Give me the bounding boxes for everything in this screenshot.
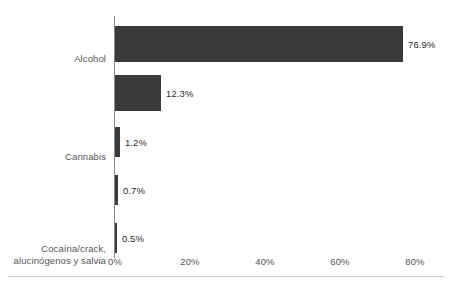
chart-row: Cannabis 12.3%: [0, 69, 452, 117]
bar-value-label: 0.5%: [122, 233, 144, 244]
bar-value-label: 1.2%: [125, 137, 147, 148]
bar-wrapper: 0.7%: [115, 166, 145, 214]
plot-area: Alcohol 76.9% Cannabis 12.3% Cocaína/cra…: [0, 0, 452, 287]
x-axis-tick-60: 60%: [330, 256, 349, 267]
bottom-divider: [8, 276, 444, 277]
chart-row: Alcohol 76.9%: [0, 20, 452, 68]
bar-value-label: 0.7%: [123, 185, 145, 196]
bar-value-label: 76.9%: [408, 39, 435, 50]
bar-chart: Alcohol 76.9% Cannabis 12.3% Cocaína/cra…: [0, 0, 452, 287]
x-axis-tick-0: 0%: [108, 256, 122, 267]
x-axis-tick-20: 20%: [180, 256, 199, 267]
bar-cannabis: [115, 75, 161, 111]
bar-wrapper: 12.3%: [115, 69, 193, 117]
bar-value-label: 12.3%: [166, 88, 193, 99]
x-axis-tick-40: 40%: [255, 256, 274, 267]
chart-row: Cocaína/crack, alucinógenos y salvia 1.2…: [0, 118, 452, 166]
category-label-line: Alcohol: [0, 53, 106, 65]
chart-row: Fármacos sin receta 0.5%: [0, 214, 452, 262]
bar-extasis: [115, 175, 118, 205]
x-axis-tick-80: 80%: [405, 256, 424, 267]
bar-wrapper: 0.5%: [115, 214, 144, 262]
chart-row: Éxtasis 0.7%: [0, 166, 452, 214]
bar-farmacos: [115, 223, 117, 253]
category-label: Alcohol: [0, 53, 106, 65]
bar-cocaina: [115, 127, 120, 157]
bar-wrapper: 1.2%: [115, 118, 147, 166]
bar-wrapper: 76.9%: [115, 20, 435, 68]
bar-alcohol: [115, 26, 403, 62]
